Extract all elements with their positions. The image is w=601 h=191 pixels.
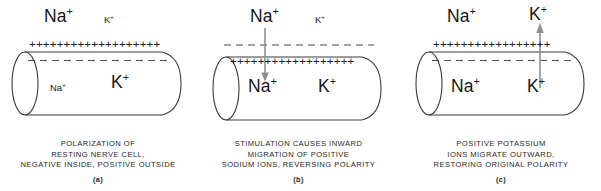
panel-c-letter: (c) bbox=[401, 175, 601, 184]
caption-line: IONS MIGRATE OUTWARD, bbox=[401, 150, 601, 161]
inside-positive-charge-row: ++++++++++++++++++ bbox=[230, 55, 368, 67]
panel-a-letter: (a) bbox=[0, 175, 196, 184]
outside-sodium-label: Na+ bbox=[447, 6, 476, 27]
caption-line: STIMULATION CAUSES INWARD bbox=[196, 139, 401, 150]
outside-sodium-label: Na+ bbox=[250, 6, 279, 27]
inside-sodium-label: Na+ bbox=[50, 82, 66, 93]
outside-positive-charge-row: +++++++++++++++++ bbox=[433, 38, 573, 50]
caption-line: NEGATIVE INSIDE, POSITIVE OUTSIDE bbox=[0, 160, 196, 171]
panel-a-cell-drawing bbox=[0, 0, 196, 140]
panel-a-caption: POLARIZATION OF RESTING NERVE CELL, NEGA… bbox=[0, 139, 196, 171]
outside-potassium-label: K+ bbox=[315, 14, 325, 25]
caption-line: RESTORING ORIGINAL POLARITY bbox=[401, 160, 601, 171]
inside-sodium-label: Na+ bbox=[451, 76, 480, 97]
panel-c-cell-drawing bbox=[401, 0, 601, 140]
panel-b-caption: STIMULATION CAUSES INWARD MIGRATION OF P… bbox=[196, 139, 401, 171]
outside-potassium-label: K+ bbox=[104, 14, 114, 25]
caption-line: SODIUM IONS, REVERSING POLARITY bbox=[196, 160, 401, 171]
inside-potassium-label: K+ bbox=[318, 76, 336, 97]
caption-line: MIGRATION OF POSITIVE bbox=[196, 150, 401, 161]
inside-potassium-label: K+ bbox=[111, 72, 129, 93]
caption-line: POSITIVE POTASSIUM bbox=[401, 139, 601, 150]
panel-b: ++++++++++++++++++ Na+ K+ Na+ K+ STIMULA… bbox=[196, 0, 401, 191]
axon-left-opening bbox=[416, 52, 442, 115]
panel-b-letter: (b) bbox=[196, 175, 401, 184]
caption-line: POLARIZATION OF bbox=[0, 139, 196, 150]
outside-positive-charge-row: +++++++++++++++++++ bbox=[29, 38, 174, 50]
panel-a: +++++++++++++++++++ Na+ K+ Na+ K+ POLARI… bbox=[0, 0, 196, 191]
panel-c: +++++++++++++++++ Na+ K+ Na+ K+ POSITIVE… bbox=[401, 0, 601, 191]
caption-line: RESTING NERVE CELL, bbox=[0, 150, 196, 161]
nerve-impulse-figure: +++++++++++++++++++ Na+ K+ Na+ K+ POLARI… bbox=[0, 0, 601, 191]
panel-c-caption: POSITIVE POTASSIUM IONS MIGRATE OUTWARD,… bbox=[401, 139, 601, 171]
outside-sodium-label: Na+ bbox=[44, 6, 73, 27]
panel-b-cell-drawing bbox=[196, 0, 401, 140]
axon-right-cap bbox=[162, 52, 181, 115]
axon-left-opening bbox=[12, 52, 38, 115]
inside-potassium-label: K+ bbox=[527, 76, 545, 97]
inside-sodium-label: Na+ bbox=[248, 76, 277, 97]
axon-right-cap bbox=[565, 52, 584, 115]
outside-potassium-label: K+ bbox=[529, 4, 547, 25]
